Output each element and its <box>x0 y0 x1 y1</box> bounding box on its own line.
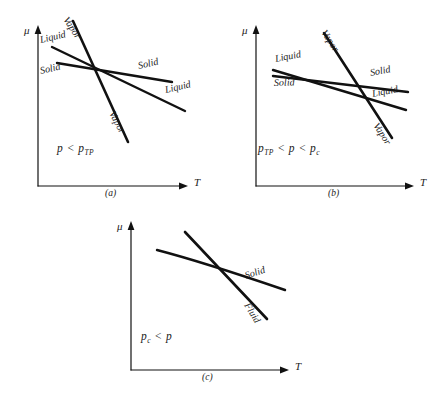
panel-b-caption: (b) <box>328 188 339 198</box>
panel-b-x-axis-arrow <box>405 183 414 190</box>
panel-a-x-axis-arrow <box>179 183 188 190</box>
panel-a: μ T Vapor Liquid Solid Solid Liquid Vapo… <box>0 0 215 200</box>
panel-b-condition-text-2: < p < p <box>274 142 317 154</box>
panel-b-condition: pTP < p < pc <box>258 142 320 157</box>
panel-b-x-axis-label: T <box>420 176 426 188</box>
panel-c-y-axis-arrow <box>128 221 135 230</box>
panel-c-condition: pc < p <box>141 330 172 345</box>
panel-c-x-axis-arrow <box>280 367 289 374</box>
panel-b-y-axis-label: μ <box>242 24 248 36</box>
panel-c-y-axis-label: μ <box>117 220 123 232</box>
panel-b-condition-sub-1: TP <box>264 148 274 157</box>
panel-c: μ T Solid Fluid pc < p (c) <box>105 200 335 399</box>
panel-a-condition-text: p < p <box>57 142 85 154</box>
panel-a-condition-sub: TP <box>85 148 95 157</box>
panel-a-axes <box>0 0 215 200</box>
panel-b-y-axis-arrow <box>253 25 260 34</box>
panel-c-caption: (c) <box>202 372 213 382</box>
panel-c-x-axis-label: T <box>295 360 301 372</box>
panel-c-condition-tail: < p <box>151 330 172 342</box>
panel-a-condition: p < pTP <box>57 142 94 157</box>
panel-a-x-axis-label: T <box>194 176 200 188</box>
panel-a-caption: (a) <box>105 188 116 198</box>
panel-b-condition-sub-2: c <box>316 148 320 157</box>
panel-a-y-axis-label: μ <box>24 24 30 36</box>
panel-a-liquid-curve <box>52 47 185 111</box>
panel-b: μ T Vapor Liquid Solid Solid Liquid Vapo… <box>220 0 440 200</box>
panel-b-label-solid-left: Solid <box>274 76 295 88</box>
